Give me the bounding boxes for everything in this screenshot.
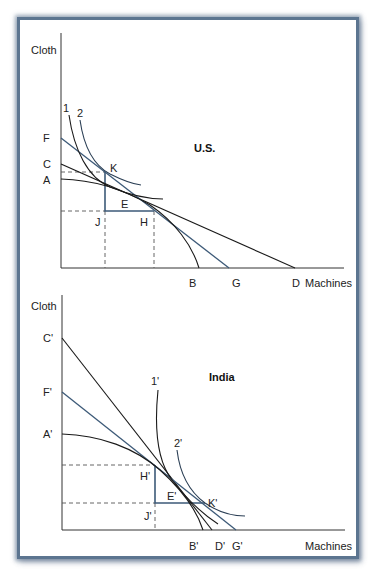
india-point-k: K' (208, 497, 217, 509)
us-x-axis-label: Machines (305, 277, 353, 289)
india-label-c: C' (43, 332, 53, 344)
india-panel-title: India (209, 371, 236, 383)
india-curve-label-1: 1' (151, 375, 159, 387)
us-point-h: H (140, 216, 148, 228)
us-label-a: A (43, 174, 51, 186)
india-point-e: E' (167, 490, 176, 502)
us-panel-title: U.S. (194, 142, 215, 154)
us-line-fg (61, 138, 229, 268)
india-label-b: B' (189, 540, 198, 552)
india-y-axis-label: Cloth (31, 300, 57, 312)
us-y-axis-label: Cloth (31, 44, 57, 56)
us-label-g: G (232, 277, 241, 289)
us-indifference-curve-1 (69, 115, 163, 199)
india-curve-label-2: 2' (174, 437, 182, 449)
us-curve-label-1: 1 (63, 102, 69, 114)
us-label-b: B (189, 277, 196, 289)
us-production-frontier (61, 179, 199, 268)
us-curve-label-2: 2 (77, 107, 83, 119)
us-panel: Cloth F C A 1 2 K E J H U.S. B G D Machi… (31, 33, 353, 289)
us-point-j: J (95, 216, 101, 228)
us-point-k: K (110, 162, 118, 174)
india-point-h: H' (140, 470, 150, 482)
india-label-a: A' (43, 428, 52, 440)
us-point-e: E (121, 198, 128, 210)
us-label-d: D (292, 277, 300, 289)
india-label-d: D' (215, 540, 225, 552)
india-label-f: F' (43, 386, 52, 398)
trade-diagram: Cloth F C A 1 2 K E J H U.S. B G D Machi… (0, 0, 375, 572)
us-indifference-curve-2 (80, 120, 141, 185)
us-label-f: F (43, 132, 50, 144)
india-label-g: G' (232, 540, 243, 552)
india-x-axis-label: Machines (305, 540, 353, 552)
us-label-c: C (43, 158, 51, 170)
india-point-j: J' (144, 510, 152, 522)
india-panel: Cloth C' F' A' 1' 2' India H' E' K' J' B… (31, 295, 353, 552)
india-line-cd (62, 338, 212, 530)
